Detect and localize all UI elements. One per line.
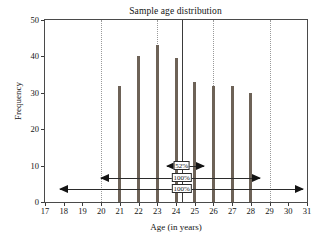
y-axis-title: Frequency <box>13 51 23 151</box>
x-tick-label: 29 <box>265 206 274 216</box>
bar <box>249 93 252 202</box>
x-tick-label: 22 <box>134 206 143 216</box>
plot-inner: 52%100%100% <box>45 20 307 202</box>
y-tick <box>41 56 44 57</box>
y-tick <box>41 93 44 94</box>
y-tick <box>41 20 44 21</box>
x-tick-label: 27 <box>228 206 237 216</box>
x-tick-label: 23 <box>153 206 162 216</box>
x-tick-label: 28 <box>247 206 256 216</box>
x-tick-label: 24 <box>172 206 181 216</box>
y-tick-label: 20 <box>31 124 40 134</box>
x-tick-label: 31 <box>303 206 312 216</box>
y-tick-label: 30 <box>31 88 40 98</box>
chart-title: Sample age distribution <box>0 6 327 16</box>
interval-1-sigma-label: 52% <box>173 161 190 170</box>
x-tick-label: 26 <box>209 206 218 216</box>
bar <box>137 56 140 202</box>
arrow-head-right-icon <box>196 162 205 170</box>
bar <box>212 86 215 202</box>
y-tick-label: 40 <box>31 51 40 61</box>
x-tick-label: 25 <box>190 206 199 216</box>
x-tick-label: 19 <box>78 206 87 216</box>
x-tick-label: 30 <box>284 206 293 216</box>
bar <box>118 86 121 202</box>
x-tick-label: 21 <box>116 206 125 216</box>
x-tick-label: 17 <box>41 206 50 216</box>
y-tick-label: 0 <box>35 197 39 207</box>
x-tick-label: 20 <box>97 206 106 216</box>
arrow-head-left-icon <box>59 185 68 193</box>
bar <box>193 82 196 202</box>
gridline-vertical <box>270 20 271 202</box>
interval-3-sigma-label: 100% <box>171 184 191 193</box>
y-tick-label: 10 <box>31 161 40 171</box>
arrow-head-right-icon <box>295 185 304 193</box>
y-tick <box>41 166 44 167</box>
x-tick-label: 18 <box>59 206 68 216</box>
y-tick <box>41 202 44 203</box>
x-axis-title: Age (in years) <box>44 222 308 232</box>
y-tick-label: 50 <box>31 15 40 25</box>
y-tick <box>41 129 44 130</box>
plot-area: 52%100%100% <box>44 19 308 203</box>
bar <box>231 86 234 202</box>
chart-container: Sample age distribution 52%100%100% 1718… <box>0 0 327 246</box>
x-axis: 171819202122232425262728293031 <box>44 203 308 219</box>
interval-2-sigma-label: 100% <box>171 173 191 182</box>
arrow-head-right-icon <box>252 174 261 182</box>
arrow-head-left-icon <box>100 174 109 182</box>
